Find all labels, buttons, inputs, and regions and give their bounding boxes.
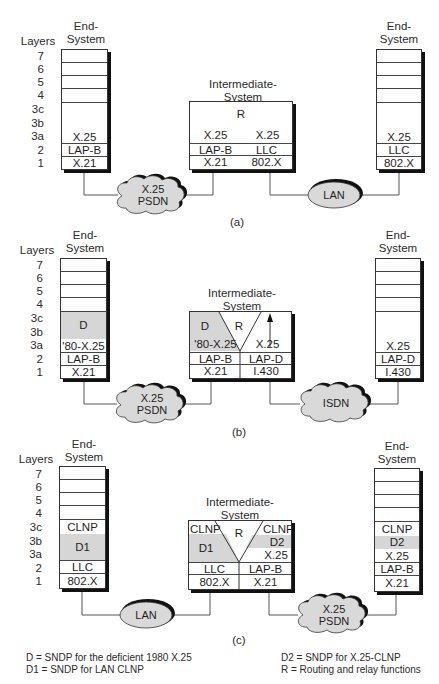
connector-line: [172, 592, 210, 615]
connector-line: [84, 381, 117, 404]
layer-7: [60, 467, 105, 480]
layer-2: LAP-B: [62, 144, 107, 157]
right-end-system-stack: X.25 LAP-D I.430: [375, 258, 421, 379]
layer-4: [60, 506, 105, 520]
layer-3c-clnp: CLNP: [375, 522, 419, 536]
right-end-system-title: End- System: [376, 20, 422, 46]
right-end-system-title: End- System: [375, 229, 421, 255]
layer-2: LAP-B: [61, 353, 106, 366]
right-end-system-title: End- System: [374, 440, 420, 466]
layer-2: LAP-B: [375, 563, 419, 576]
routing-label: R: [232, 320, 246, 333]
layer-4: [62, 89, 107, 103]
intermediate-system-stack: X.25 X.25 R LAP-B LLC X.21 802.X: [189, 101, 293, 170]
layer-2: LAP-D: [376, 353, 420, 366]
left-end-system-stack: D '80-X.25 LAP-B X.21: [60, 258, 107, 379]
layer-5: [62, 76, 107, 89]
layer-1: X.21: [61, 366, 106, 379]
layer-2: LLC: [377, 144, 421, 157]
layer-1: 802.X: [377, 157, 421, 170]
routing-label: R: [232, 527, 246, 540]
connector-line: [84, 172, 118, 195]
layer-3a: X.25: [375, 549, 419, 563]
layer-number-column: 7 6 5 4 3c 3b 3a 2 1: [20, 50, 44, 170]
layer-6: [375, 482, 419, 495]
layer-7: [377, 50, 421, 63]
right-end-system-stack: CLNP D2 X.25 LAP-B X.21: [374, 468, 420, 592]
legend-left: D = SNDP for the deficient 1980 X.25 D1 …: [26, 652, 192, 676]
layer-4: [377, 89, 421, 103]
connector-line: [270, 172, 308, 195]
layer-3-sndp-d: D: [61, 312, 106, 339]
layer-2: LLC: [60, 561, 105, 574]
network-label-isdn: ISDN: [308, 397, 364, 410]
layer-5: [375, 495, 419, 508]
intermediate-system-stack: CLNP D1 R CLNP D2 X.25 LLC LAP-B 802.X X…: [188, 520, 292, 590]
network-label-x25-psdn: X.25 PSDN: [125, 183, 181, 207]
right-end-system-stack: X.25 LLC 802.X: [376, 49, 422, 170]
left-end-system-title: End- System: [61, 229, 109, 255]
layer-1: 802.X: [60, 574, 105, 588]
layer-3a: '80-X.25: [61, 339, 106, 353]
connector-line: [269, 592, 298, 615]
network-label-x25-psdn: X.25 PSDN: [124, 392, 180, 416]
layer-3: X.25: [377, 103, 421, 144]
layer-6: [377, 63, 421, 76]
layer-4: [376, 298, 420, 312]
layer-6: [62, 63, 107, 76]
layer-number-column: 7 6 5 4 3c 3b 3a 2 1: [18, 468, 42, 588]
network-label-lan: LAN: [122, 609, 170, 622]
layer-3c-clnp: CLNP: [60, 520, 105, 534]
layer-7: [61, 259, 106, 272]
layer-6: [61, 272, 106, 285]
layer-5: [376, 285, 420, 298]
layer-5: [61, 285, 106, 298]
layer-4: [375, 508, 419, 522]
layer-3ab-sndp-d1: D1: [60, 534, 105, 561]
layer-7: [375, 469, 419, 482]
routing-label: R: [234, 108, 248, 121]
intermediate-system-stack: D '80-X.25 X.25 R LAP-B LAP-D X.21 I.430: [189, 311, 292, 379]
legend-right: D2 = SNDP for X.25-CLNP R = Routing and …: [281, 652, 421, 676]
layer-3: X.25: [376, 312, 420, 353]
intermediate-system-title: Intermediate- System: [205, 496, 275, 522]
layer-1: X.21: [62, 157, 107, 170]
layer-3b-sndp-d2: D2: [375, 536, 419, 549]
caption-b: (b): [227, 426, 251, 438]
layers-heading: Layers: [18, 35, 58, 48]
connector-line: [182, 381, 211, 404]
connector-line: [366, 594, 396, 615]
layer-6: [60, 480, 105, 493]
layer-7: [62, 50, 107, 63]
connector-line: [270, 381, 300, 404]
layer-3: X.25: [62, 103, 107, 144]
connector-line: [368, 381, 398, 404]
layers-heading: Layers: [16, 453, 56, 466]
connector-line: [82, 592, 121, 615]
left-end-system-stack: X.25 LAP-B X.21: [61, 49, 108, 170]
left-end-system-title: End- System: [60, 438, 108, 464]
layer-4: [61, 298, 106, 312]
layer-number-column: 7 6 5 4 3c 3b 3a 2 1: [19, 259, 43, 379]
network-label-x25-psdn: X.25 PSDN: [306, 603, 362, 627]
left-end-system-stack: CLNP D1 LLC 802.X: [59, 466, 106, 589]
layer-1: I.430: [376, 366, 420, 379]
network-label-lan: LAN: [310, 189, 358, 202]
left-end-system-title: End- System: [62, 20, 110, 46]
connector-line: [362, 172, 399, 195]
layer-1: X.21: [375, 576, 419, 590]
layer-5: [377, 76, 421, 89]
layer-7: [376, 259, 420, 272]
layer-6: [376, 272, 420, 285]
layers-heading: Layers: [17, 244, 57, 257]
intermediate-system-title: Intermediate- System: [207, 287, 277, 313]
caption-a: (a): [225, 216, 249, 228]
caption-c: (c): [227, 634, 251, 646]
layer-5: [60, 493, 105, 506]
